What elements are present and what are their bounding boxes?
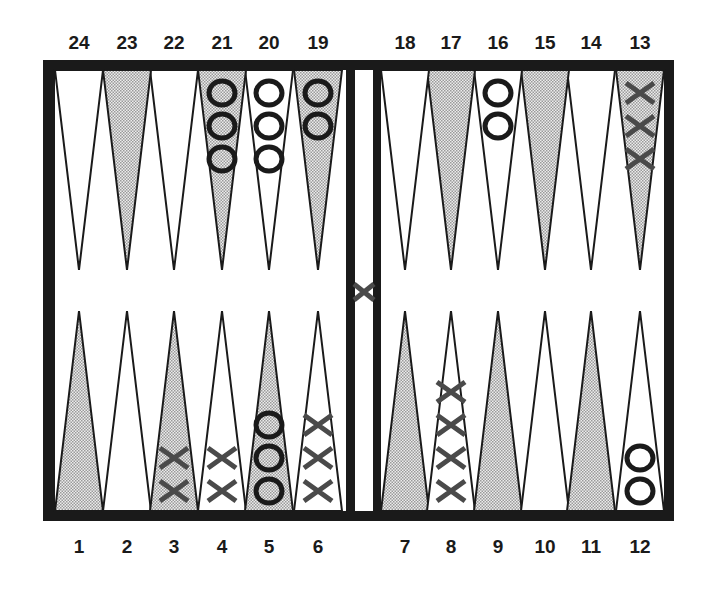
right-half	[381, 70, 664, 511]
top-label-17: 17	[431, 32, 471, 54]
top-label-22: 22	[154, 32, 194, 54]
bottom-label-8: 8	[431, 536, 471, 558]
bottom-label-11: 11	[571, 536, 611, 558]
top-label-21: 21	[202, 32, 242, 54]
bottom-label-10: 10	[525, 536, 565, 558]
top-label-14: 14	[571, 32, 611, 54]
bottom-label-9: 9	[478, 536, 518, 558]
bottom-label-2: 2	[107, 536, 147, 558]
board-svg	[0, 0, 708, 591]
bottom-label-6: 6	[298, 536, 338, 558]
bottom-label-12: 12	[620, 536, 660, 558]
bottom-label-7: 7	[385, 536, 425, 558]
bottom-label-5: 5	[249, 536, 289, 558]
top-label-20: 20	[249, 32, 289, 54]
top-label-23: 23	[107, 32, 147, 54]
top-label-24: 24	[59, 32, 99, 54]
bottom-label-4: 4	[202, 536, 242, 558]
top-label-15: 15	[525, 32, 565, 54]
top-label-18: 18	[385, 32, 425, 54]
bottom-label-1: 1	[59, 536, 99, 558]
bottom-label-3: 3	[154, 536, 194, 558]
top-label-13: 13	[620, 32, 660, 54]
top-label-16: 16	[478, 32, 518, 54]
top-label-19: 19	[298, 32, 338, 54]
